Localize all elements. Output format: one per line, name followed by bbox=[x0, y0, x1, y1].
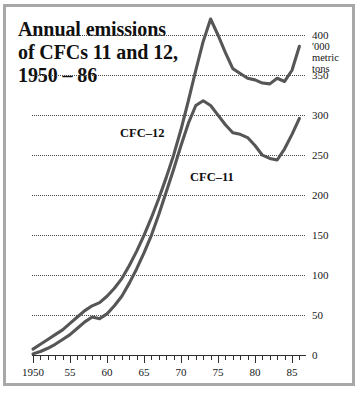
series-lines bbox=[0, 0, 364, 406]
series-label-cfc-12: CFC–12 bbox=[120, 126, 164, 141]
line-cfc-12 bbox=[33, 19, 299, 349]
figure-container: Annual emissions of CFCs 11 and 12, 1950… bbox=[0, 0, 364, 406]
line-cfc-11 bbox=[33, 101, 299, 354]
chart-stage: Annual emissions of CFCs 11 and 12, 1950… bbox=[0, 0, 364, 406]
series-label-cfc-11: CFC–11 bbox=[190, 170, 234, 185]
